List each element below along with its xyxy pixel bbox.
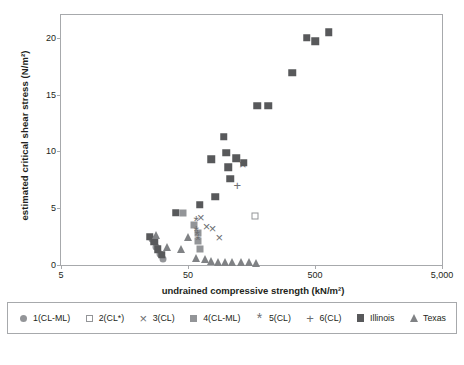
y-tick-mark (57, 38, 61, 39)
data-point (207, 156, 215, 164)
data-point (158, 251, 166, 259)
legend-label: 5(CL) (269, 313, 291, 323)
chart-legend: 1(CL-ML)2(CL*)3(CL)4(CL-ML)5(CL)6(CL)Ill… (7, 302, 457, 334)
legend-item-3-cl[interactable]: 3(CL) (138, 313, 175, 324)
legend-item-6-cl[interactable]: 6(CL) (304, 313, 341, 324)
legend-label: 4(CL-ML) (203, 313, 240, 323)
triangle-filled-icon (408, 313, 419, 324)
data-point (233, 154, 241, 162)
y-tick-label: 5 (51, 203, 56, 213)
data-point (212, 193, 220, 201)
x-tick-mark (61, 265, 62, 269)
data-point (195, 233, 200, 247)
x-tick-mark (188, 265, 189, 269)
data-point (227, 175, 235, 183)
legend-label: 3(CL) (153, 313, 175, 323)
data-point (163, 243, 171, 251)
data-point (303, 34, 311, 42)
data-point (192, 254, 200, 262)
plus-icon (304, 313, 315, 324)
data-point (152, 231, 160, 239)
y-tick-label: 15 (46, 90, 56, 100)
legend-item-1-cl-ml[interactable]: 1(CL-ML) (18, 313, 70, 324)
data-point (225, 164, 233, 172)
legend-label: 1(CL-ML) (33, 313, 70, 323)
data-point (172, 209, 180, 217)
data-point (254, 102, 262, 110)
data-point (237, 258, 245, 266)
star-icon (254, 313, 265, 324)
data-point (184, 233, 192, 241)
x-tick-mark (315, 265, 316, 269)
legend-item-texas[interactable]: Texas (408, 313, 446, 324)
legend-label: 6(CL) (319, 313, 341, 323)
data-point (288, 69, 296, 77)
x-tick-label: 500 (307, 270, 322, 280)
legend-item-5-cl[interactable]: 5(CL) (254, 313, 291, 324)
y-tick-mark (57, 151, 61, 152)
x-icon (138, 313, 149, 324)
data-point (240, 159, 248, 167)
y-tick-label: 20 (46, 33, 56, 43)
y-tick-label: 10 (46, 146, 56, 156)
chart-root: estimated critical shear stress (N/m²) 0… (0, 0, 464, 365)
x-tick-label: 50 (183, 270, 193, 280)
square-filled-gray-icon (188, 313, 199, 324)
data-point (196, 201, 204, 209)
square-open-icon (84, 313, 95, 324)
legend-label: Illinois (370, 313, 394, 323)
data-point (215, 230, 223, 243)
data-point (222, 149, 230, 157)
x-tick-mark (442, 265, 443, 269)
legend-item-2-cl[interactable]: 2(CL*) (84, 313, 124, 324)
data-point (265, 102, 273, 110)
legend-label: 2(CL*) (99, 313, 124, 323)
legend-label: Texas (423, 313, 446, 323)
legend-item-4-cl-ml[interactable]: 4(CL-ML) (188, 313, 240, 324)
x-tick-label: 5,000 (431, 270, 454, 280)
data-point (233, 179, 241, 192)
y-tick-mark (57, 95, 61, 96)
y-tick-mark (57, 208, 61, 209)
data-point (177, 245, 185, 253)
data-point (325, 28, 333, 36)
data-point (220, 133, 228, 141)
scatter-plot: estimated critical shear stress (N/m²) 0… (0, 0, 464, 300)
data-point (228, 258, 236, 266)
circle-filled-icon (18, 313, 29, 324)
data-point (252, 259, 260, 267)
y-axis-title: estimated critical shear stress (N/m²) (19, 26, 30, 246)
data-point (180, 209, 187, 216)
square-filled-dark-icon (355, 313, 366, 324)
plot-area: 05101520 5505005,000 (60, 14, 443, 266)
x-axis-title: undrained compressive strength (kN/m²) (58, 285, 448, 296)
x-tick-label: 5 (58, 270, 63, 280)
data-point (311, 37, 319, 45)
y-tick-label: 0 (51, 260, 56, 270)
data-point (252, 213, 259, 220)
legend-item-illinois[interactable]: Illinois (355, 313, 394, 324)
